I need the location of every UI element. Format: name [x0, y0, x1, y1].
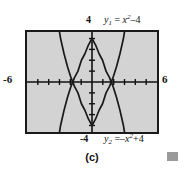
plot-viewport	[25, 30, 159, 134]
y2-constant: 4	[139, 133, 144, 144]
equation-label-y2: y2 =–x2+4	[104, 133, 144, 146]
y1-subscript: 1	[108, 19, 112, 27]
x-min-label: -6	[3, 74, 12, 85]
y-max-label: 4	[86, 15, 91, 25]
equation-label-y1: y1 = x2–4	[104, 14, 141, 27]
y2-subscript: 2	[108, 138, 112, 146]
corner-marker-square	[167, 152, 178, 161]
figure-caption: (c)	[0, 152, 184, 163]
y1-constant: 4	[136, 14, 141, 25]
y1-equals: =	[114, 14, 120, 25]
x-max-label: 6	[162, 74, 168, 85]
plot-canvas	[27, 32, 157, 132]
y-min-label: -4	[80, 134, 88, 144]
graph-figure: -6 6 4 -4 y1 = x2–4 y2 =–x2+4 (c)	[0, 0, 184, 178]
